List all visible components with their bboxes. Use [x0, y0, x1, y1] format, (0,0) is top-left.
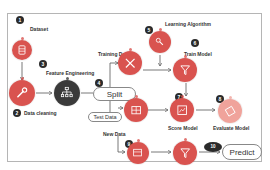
data-cleaning-node[interactable] — [9, 80, 35, 106]
hierarchy-icon — [59, 85, 75, 101]
evaluate-model-label: Evaluate Model — [213, 125, 249, 131]
training-data-node[interactable] — [118, 51, 142, 75]
algorithm-icon — [153, 35, 166, 48]
data-cleaning-label: Data cleaning — [24, 110, 57, 116]
new-data-label: New Data — [103, 131, 126, 137]
scissors-icon — [123, 56, 137, 70]
predict-button[interactable]: Predict — [222, 144, 262, 160]
new-data-node[interactable] — [127, 142, 149, 164]
step-badge-10: 10 — [204, 142, 222, 152]
dataset-icon — [131, 146, 144, 159]
step-badge-4: 4 — [95, 79, 103, 87]
filter-icon — [178, 146, 192, 160]
score-model-label: Score Model — [168, 125, 198, 131]
learning-algorithm-label: Learning Algorithm — [165, 21, 211, 27]
train-model-label: Train Model — [184, 51, 212, 57]
table-icon — [129, 103, 143, 117]
score-model-node[interactable] — [170, 98, 194, 122]
filter-icon — [178, 63, 192, 77]
database-icon — [16, 44, 28, 56]
train-model-node[interactable] — [173, 58, 197, 82]
feature-engineering-node[interactable] — [54, 80, 80, 106]
step-badge-3: 3 — [39, 60, 47, 68]
learning-algorithm-node[interactable] — [149, 31, 171, 53]
evaluate-model-node[interactable] — [218, 99, 242, 123]
score-icon — [175, 103, 189, 117]
feature-engineering-label: Feature Engineering — [46, 70, 94, 76]
dataset-node[interactable] — [12, 40, 32, 60]
step-badge-6: 6 — [191, 39, 199, 47]
test-data-node[interactable] — [124, 98, 148, 122]
evaluate-icon — [223, 104, 237, 118]
predict-model-node[interactable] — [173, 141, 197, 165]
step-badge-1: 1 — [16, 16, 24, 24]
test-data-button[interactable]: Test Data — [88, 112, 122, 122]
wrench-icon — [14, 85, 30, 101]
step-badge-2: 2 — [13, 109, 21, 117]
dataset-label: Dataset — [30, 26, 48, 32]
